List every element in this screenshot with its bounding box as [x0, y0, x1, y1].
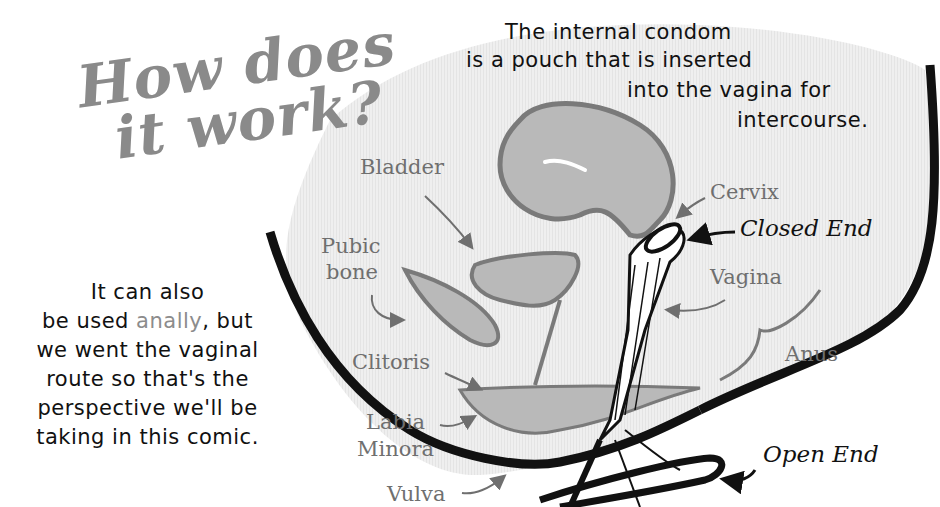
- caption-left: It can also be used anally, but we went …: [0, 278, 295, 452]
- caption-top-line-2: is a pouch that is inserted: [466, 46, 752, 74]
- label-vulva: Vulva: [387, 482, 445, 506]
- label-cervix: Cervix: [710, 180, 779, 204]
- caption-left-line-1: It can also: [0, 278, 295, 307]
- caption-left-line-3: we went the vaginal: [0, 336, 295, 365]
- caption-left-line-6: taking in this comic.: [0, 423, 295, 452]
- caption-top-line-4: intercourse.: [737, 106, 868, 134]
- label-pubic-bone-1: Pubic: [321, 234, 381, 258]
- label-pubic-bone-2: bone: [326, 260, 378, 284]
- label-closed-end: Closed End: [740, 216, 873, 240]
- comic-panel: How does it work? The internal condom is…: [0, 0, 940, 507]
- label-anus: Anus: [785, 342, 838, 366]
- caption-left-line-2: be used anally, but: [0, 307, 295, 336]
- label-vagina: Vagina: [710, 265, 782, 289]
- caption-left-line-5: perspective we'll be: [0, 394, 295, 423]
- label-clitoris: Clitoris: [352, 350, 430, 374]
- anally-highlight: anally: [136, 309, 202, 333]
- caption-top-line-3: into the vagina for: [627, 76, 831, 104]
- label-labia-2: Minora: [357, 437, 434, 461]
- label-labia-1: Labia: [366, 410, 425, 434]
- label-bladder: Bladder: [360, 155, 444, 179]
- caption-left-line-2-prefix: be used: [42, 309, 136, 333]
- caption-left-line-2-suffix: , but: [202, 309, 253, 333]
- label-open-end: Open End: [763, 442, 879, 466]
- caption-top-line-1: The internal condom: [505, 18, 732, 46]
- caption-left-line-4: route so that's the: [0, 365, 295, 394]
